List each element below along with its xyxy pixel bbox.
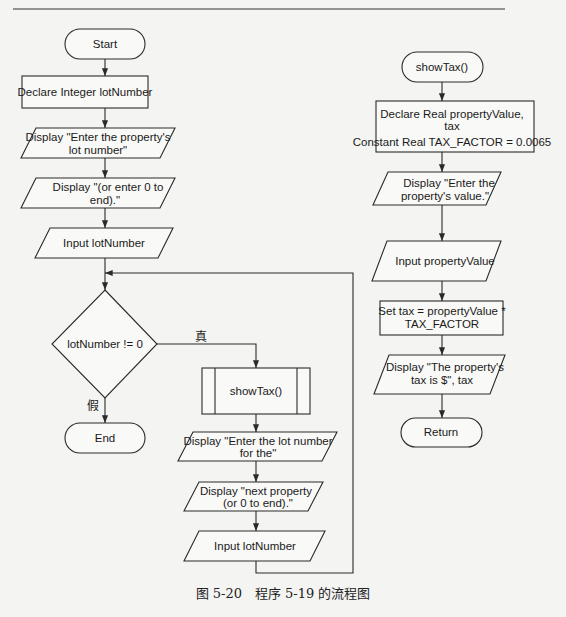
main-input-2-label: Input lotNumber xyxy=(214,540,296,552)
main-decision: lotNumber != 0 xyxy=(52,290,157,398)
module-display-2-line-1: Display "The property's xyxy=(386,361,504,373)
main-start-terminator: Start xyxy=(65,29,145,59)
main-declare-process: Declare Integer lotNumber xyxy=(18,76,153,108)
false-label: 假 xyxy=(87,399,99,413)
main-display-1-line-2: lot number" xyxy=(69,144,127,156)
module-declare-line-2: tax xyxy=(444,120,460,132)
module-start-terminator: showTax() xyxy=(402,52,483,82)
main-display-2-line-1: Display "(or enter 0 to xyxy=(53,181,164,193)
main-input-1-io: Input lotNumber xyxy=(35,228,173,258)
true-label: 真 xyxy=(195,330,207,344)
main-input-1-label: Input lotNumber xyxy=(63,237,145,249)
main-display-3-line-1: Display "Enter the lot number xyxy=(183,435,332,447)
loop-back-connector xyxy=(105,273,353,573)
main-input-2-io: Input lotNumber xyxy=(184,531,325,561)
module-set-line-1: Set tax = propertyValue * xyxy=(378,305,506,317)
main-start-label: Start xyxy=(93,38,118,50)
main-display-4-line-1: Display "next property xyxy=(200,485,312,497)
main-call-showtax-predefined-process: showTax() xyxy=(202,368,310,414)
module-declare-line-1: Declare Real propertyValue, xyxy=(380,108,524,120)
module-display-1-io: Display "Enter the property's value." xyxy=(373,172,501,205)
main-decision-label: lotNumber != 0 xyxy=(67,338,143,350)
main-display-2-line-2: end)." xyxy=(90,194,120,206)
main-display-1-line-1: Display "Enter the property's xyxy=(26,131,171,143)
true-branch-connector xyxy=(157,344,256,368)
main-display-3-io: Display "Enter the lot number for the" xyxy=(178,432,337,461)
module-display-1-line-1: Display "Enter the xyxy=(403,177,495,189)
main-display-1-io: Display "Enter the property's lot number… xyxy=(21,128,175,158)
module-display-1-line-2: property's value." xyxy=(401,190,489,202)
main-end-terminator: End xyxy=(65,423,145,453)
module-set-line-2: TAX_FACTOR xyxy=(405,318,479,330)
main-display-3-line-2: for the" xyxy=(240,447,277,459)
module-input-io: Input propertyValue xyxy=(372,241,501,281)
module-return-terminator: Return xyxy=(401,418,482,447)
module-display-2-line-2: tax is $", tax xyxy=(411,374,473,386)
module-display-2-io: Display "The property's tax is $", tax xyxy=(374,355,505,394)
module-set-process: Set tax = propertyValue * TAX_FACTOR xyxy=(378,301,506,335)
figure-caption: 图 5-20 程序 5-19 的流程图 xyxy=(196,586,371,601)
module-declare-process: Declare Real propertyValue, tax Constant… xyxy=(353,101,551,152)
main-call-label: showTax() xyxy=(230,385,283,397)
module-return-label: Return xyxy=(424,426,459,438)
flowchart-canvas: Start Declare Integer lotNumber Display … xyxy=(0,0,566,617)
module-declare-line-3: Constant Real TAX_FACTOR = 0.0065 xyxy=(353,136,551,148)
main-declare-label: Declare Integer lotNumber xyxy=(18,86,153,98)
main-display-2-io: Display "(or enter 0 to end)." xyxy=(21,178,175,208)
main-display-4-line-2: (or 0 to end)." xyxy=(223,497,293,509)
module-input-label: Input propertyValue xyxy=(395,255,495,267)
module-start-label: showTax() xyxy=(416,61,469,73)
main-display-4-io: Display "next property (or 0 to end)." xyxy=(184,482,323,511)
main-end-label: End xyxy=(95,432,115,444)
